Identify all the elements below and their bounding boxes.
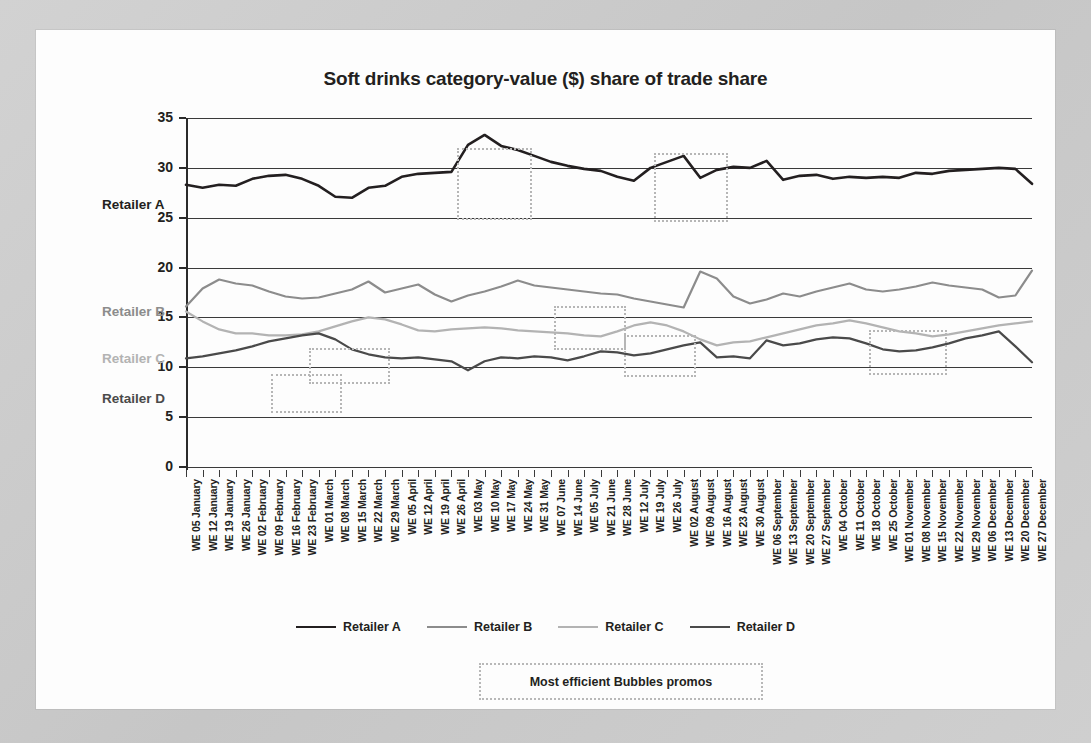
x-tick-label: WE 06 September <box>771 479 783 565</box>
x-tick-label: WE 23 August <box>737 479 749 547</box>
legend-swatch-icon <box>690 626 730 628</box>
x-tick-label: WE 22 March <box>372 479 384 542</box>
x-tick-label: WE 05 April <box>406 479 418 535</box>
legend-item-retailer-b[interactable]: Retailer B <box>427 620 532 634</box>
x-tick-label: WE 26 April <box>455 479 467 535</box>
x-tick-label: WE 11 October <box>854 479 866 551</box>
x-tick-label: WE 04 October <box>837 479 849 551</box>
x-tick-label: WE 06 December <box>986 479 998 561</box>
promo-box-3 <box>457 148 532 220</box>
plot-area: 05101520253035 Retailer ARetailer BRetai… <box>36 30 1055 709</box>
promo-box-5 <box>624 335 696 377</box>
x-tick-label: WE 12 January <box>207 479 219 551</box>
x-tick-label: WE 26 July <box>671 479 683 532</box>
x-tick-label: WE 15 March <box>356 479 368 542</box>
promo-box-4 <box>554 306 626 350</box>
x-tick-label: WE 16 February <box>290 479 302 556</box>
chart-card: Soft drinks category-value ($) share of … <box>36 30 1055 709</box>
x-tick-label: WE 12 April <box>422 479 434 535</box>
side-label-retailer-c: Retailer C <box>102 351 165 366</box>
promo-box-7 <box>869 330 947 375</box>
x-tick-label: WE 31 May <box>538 479 550 532</box>
x-tick-label: WE 21 June <box>605 479 617 536</box>
x-tick-label: WE 18 October <box>870 479 882 551</box>
x-tick-label: WE 29 March <box>389 479 401 542</box>
legend-label: Retailer C <box>605 620 663 634</box>
page-background: Soft drinks category-value ($) share of … <box>0 0 1091 743</box>
side-label-retailer-a: Retailer A <box>102 197 165 212</box>
series-line-retailer-a <box>186 135 1032 198</box>
x-tick-label: WE 20 December <box>1019 479 1031 561</box>
promo-box-2 <box>309 348 390 384</box>
legend-label: Retailer B <box>474 620 532 634</box>
promo-legend-label: Most efficient Bubbles promos <box>530 675 713 689</box>
x-tick-label: WE 15 November <box>936 479 948 562</box>
promo-box-6 <box>654 153 728 222</box>
x-tick-label: WE 17 May <box>505 479 517 532</box>
x-tick-label: WE 26 January <box>240 479 252 551</box>
x-tick-label: WE 12 July <box>638 479 650 532</box>
x-tick-label: WE 03 May <box>472 479 484 532</box>
x-tick-label: WE 01 November <box>903 479 915 562</box>
x-tick-label: WE 01 March <box>323 479 335 542</box>
x-tick-label: WE 19 January <box>223 479 235 551</box>
x-tick-label: WE 02 August <box>688 479 700 547</box>
x-tick-label: WE 27 December <box>1036 479 1048 561</box>
legend-swatch-icon <box>558 626 598 628</box>
x-tick-label: WE 10 May <box>489 479 501 532</box>
x-tick-label: WE 14 June <box>572 479 584 536</box>
x-tick-label: WE 19 July <box>654 479 666 532</box>
series-line-retailer-b <box>186 271 1032 308</box>
x-tick-label: WE 07 June <box>555 479 567 536</box>
legend-item-retailer-c[interactable]: Retailer C <box>558 620 663 634</box>
x-tick-label: WE 16 August <box>721 479 733 547</box>
x-tick-label: WE 02 February <box>256 479 268 556</box>
x-tick-label: WE 24 May <box>522 479 534 532</box>
x-tick-label: WE 22 November <box>953 479 965 562</box>
x-tick-label: WE 25 October <box>887 479 899 551</box>
legend-swatch-icon <box>427 626 467 628</box>
x-axis-labels: WE 05 JanuaryWE 12 JanuaryWE 19 JanuaryW… <box>186 479 1032 619</box>
promo-legend-box: Most efficient Bubbles promos <box>479 663 763 700</box>
x-tick-label: WE 13 September <box>787 479 799 565</box>
x-tick-label: WE 09 August <box>704 479 716 547</box>
legend-item-retailer-a[interactable]: Retailer A <box>296 620 401 634</box>
x-tick-label: WE 05 January <box>190 479 202 551</box>
legend-label: Retailer D <box>737 620 795 634</box>
x-tick-label: WE 29 November <box>970 479 982 562</box>
x-tick-label: WE 05 July <box>588 479 600 532</box>
chart-legend: Retailer ARetailer BRetailer CRetailer D <box>36 620 1055 634</box>
side-label-retailer-b: Retailer B <box>102 304 165 319</box>
x-tick-label: WE 19 April <box>439 479 451 535</box>
legend-swatch-icon <box>296 626 336 628</box>
legend-label: Retailer A <box>343 620 401 634</box>
legend-item-retailer-d[interactable]: Retailer D <box>690 620 795 634</box>
x-tick-label: WE 23 February <box>306 479 318 556</box>
side-label-retailer-d: Retailer D <box>102 391 165 406</box>
x-tick-label: WE 30 August <box>754 479 766 547</box>
x-tick-label: WE 08 November <box>920 479 932 562</box>
x-tick-label: WE 08 March <box>339 479 351 542</box>
x-tick-label: WE 27 September <box>820 479 832 565</box>
x-tick-label: WE 09 February <box>273 479 285 556</box>
x-tick-label: WE 20 September <box>804 479 816 565</box>
x-tick-label: WE 28 June <box>621 479 633 536</box>
x-tick-label: WE 13 December <box>1003 479 1015 561</box>
